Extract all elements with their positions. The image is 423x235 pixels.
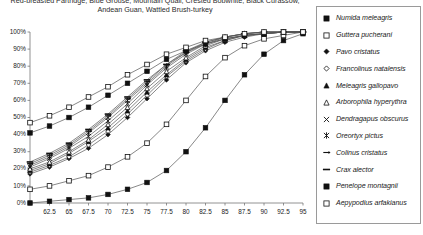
data-point xyxy=(145,180,150,185)
data-point xyxy=(203,74,208,79)
data-point xyxy=(106,84,111,89)
legend-item-label: Crax alector xyxy=(336,166,374,174)
y-tick-label: 100% xyxy=(10,28,27,35)
legend-item-label: Pavo cristatus xyxy=(336,48,380,56)
x-tick-label: 62.5 xyxy=(43,208,56,215)
data-point xyxy=(184,98,189,103)
filled-triangle-icon xyxy=(321,80,332,91)
y-tick-label: 0% xyxy=(17,199,27,206)
data-point xyxy=(106,192,111,197)
legend-item[interactable]: Colinus cristatus xyxy=(321,144,418,161)
legend-item[interactable]: Francolinus natalensis xyxy=(321,60,418,77)
data-point xyxy=(106,165,111,170)
data-point xyxy=(145,141,150,146)
legend-item[interactable]: Guttera pucherani xyxy=(321,27,418,44)
filled-square-icon xyxy=(321,181,332,192)
open-diamond-icon xyxy=(321,63,332,74)
data-point xyxy=(242,43,247,48)
y-tick-label: 80% xyxy=(13,62,26,69)
data-point xyxy=(223,98,228,103)
legend-item-label: Arborophila hyperythra xyxy=(336,98,407,106)
legend-item[interactable]: Arborophila hyperythra xyxy=(321,94,418,111)
data-point xyxy=(203,125,208,130)
data-point xyxy=(301,30,306,35)
legend-item-label: Meleagris gallopavo xyxy=(336,82,398,90)
chart-canvas: 0%10%20%30%40%50%60%70%80%90%100%62.5656… xyxy=(0,24,312,235)
x-tick-label: 65 xyxy=(65,208,73,215)
data-point xyxy=(86,105,91,110)
cross-x-icon xyxy=(321,114,332,125)
open-triangle-icon xyxy=(321,97,332,108)
legend-item-label: Dendragapus obscurus xyxy=(336,115,408,123)
legend-item[interactable]: Meleagris gallopavo xyxy=(321,77,418,94)
x-tick-label: 92.5 xyxy=(277,208,290,215)
x-tick-label: 80 xyxy=(182,208,190,215)
data-point xyxy=(242,31,247,36)
data-point xyxy=(223,35,228,40)
data-point xyxy=(262,30,267,35)
series-8 xyxy=(27,31,307,166)
data-point xyxy=(106,93,111,98)
data-point xyxy=(47,113,52,118)
data-point xyxy=(164,57,169,62)
dash-arrow-icon xyxy=(321,147,332,158)
data-point xyxy=(86,95,91,100)
data-point xyxy=(67,197,72,202)
y-tick-label: 50% xyxy=(13,113,26,120)
data-point xyxy=(125,155,130,160)
y-tick-label: 60% xyxy=(13,96,26,103)
data-point xyxy=(47,184,52,189)
legend-item-label: Oreortyx pictus xyxy=(336,132,383,140)
x-tick-label: 72.5 xyxy=(121,208,134,215)
legend-item[interactable]: Oreortyx pictus xyxy=(321,128,418,145)
series-5 xyxy=(28,30,306,171)
data-point xyxy=(262,52,267,57)
legend-item[interactable]: Pavo cristatus xyxy=(321,44,418,61)
data-point xyxy=(67,105,72,110)
data-point xyxy=(86,196,91,201)
chart-page: Red-breasted Partridge, Blue Grouse, Mou… xyxy=(0,0,423,235)
x-tick-label: 75 xyxy=(143,208,151,215)
x-tick-label: 82.5 xyxy=(199,208,212,215)
data-point xyxy=(145,69,150,74)
data-point xyxy=(184,149,189,154)
y-tick-label: 40% xyxy=(13,130,26,137)
legend-item[interactable]: Numida meleagris xyxy=(321,10,418,27)
data-point xyxy=(203,38,208,43)
data-point xyxy=(145,62,150,67)
plot-area: 0%10%20%30%40%50%60%70%80%90%100%62.5656… xyxy=(0,24,312,235)
series-7 xyxy=(28,29,306,168)
x-tick-label: 85 xyxy=(221,208,229,215)
legend-item-label: Aepypodius arfakianus xyxy=(336,199,407,207)
x-tick-label: 77.5 xyxy=(160,208,173,215)
y-tick-label: 90% xyxy=(13,45,26,52)
legend-item-label: Colinus cristatus xyxy=(336,149,387,157)
x-tick-label: 67.5 xyxy=(82,208,95,215)
star-x-icon xyxy=(321,130,332,141)
x-tick-label: 87.5 xyxy=(238,208,251,215)
legend-item[interactable]: Penelope montagnii xyxy=(321,178,418,195)
data-point xyxy=(242,72,247,77)
legend-item-label: Penelope montagnii xyxy=(336,182,398,190)
data-point xyxy=(164,122,169,127)
data-point xyxy=(28,120,33,125)
data-point xyxy=(28,131,33,136)
data-point xyxy=(281,38,286,43)
data-point xyxy=(281,30,286,35)
legend-item[interactable]: Dendragapus obscurus xyxy=(321,111,418,128)
data-point xyxy=(125,187,130,192)
y-tick-label: 70% xyxy=(13,79,26,86)
chart-legend: Numida meleagrisGuttera pucheraniPavo cr… xyxy=(316,6,421,224)
x-tick-label: 95 xyxy=(299,208,307,215)
legend-item[interactable]: Crax alector xyxy=(321,161,418,178)
legend-item[interactable]: Aepypodius arfakianus xyxy=(321,195,418,212)
data-point xyxy=(164,52,169,57)
chart-title: Red-breasted Partridge, Blue Grouse, Mou… xyxy=(0,0,310,14)
data-point xyxy=(125,81,130,86)
data-point xyxy=(164,168,169,173)
chart-title-line2: Andean Guan, Wattled Brush-turkey xyxy=(0,5,310,14)
data-point xyxy=(47,199,52,204)
y-tick-label: 20% xyxy=(13,164,26,171)
x-tick-label: 90 xyxy=(260,208,268,215)
x-tick-label: 70 xyxy=(104,208,112,215)
